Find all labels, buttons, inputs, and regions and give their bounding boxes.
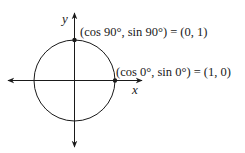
point-90-deg bbox=[72, 38, 76, 42]
y-axis-label: y bbox=[60, 11, 68, 26]
unit-circle-diagram: y x (cos 90°, sin 90°) = (0, 1) (cos 0°,… bbox=[0, 0, 245, 153]
point-0-deg-label: (cos 0°, sin 0°) = (1, 0) bbox=[116, 65, 231, 79]
point-90-deg-label: (cos 90°, sin 90°) = (0, 1) bbox=[80, 25, 207, 39]
x-axis-label: x bbox=[131, 82, 138, 97]
